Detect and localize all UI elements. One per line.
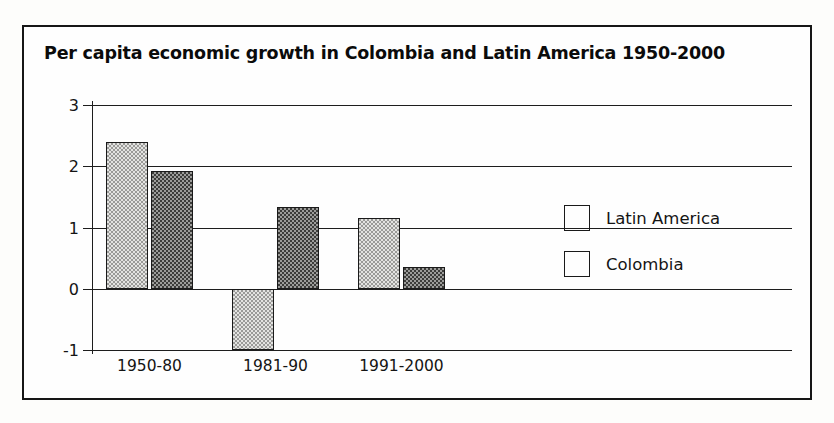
legend-swatch-icon <box>564 251 590 277</box>
bar-colombia-1991-2000 <box>403 267 445 288</box>
gridline-neg1 <box>92 350 792 351</box>
bar-latin-america-1991-2000 <box>358 218 400 288</box>
chart-title: Per capita economic growth in Colombia a… <box>44 43 725 63</box>
bar-latin-america-1950-80 <box>106 142 148 289</box>
bar-group-1950-80 <box>106 105 193 350</box>
y-axis-label: 3 <box>69 96 79 115</box>
y-tick-mark <box>83 166 93 167</box>
legend-item-colombia: Colombia <box>564 241 779 287</box>
bar-group-1981-90 <box>232 105 319 350</box>
chart-legend: Latin AmericaColombia <box>564 195 779 287</box>
y-axis-label: -1 <box>63 341 79 360</box>
y-tick-mark <box>83 228 93 229</box>
y-axis-label: 1 <box>69 218 79 237</box>
y-tick-mark <box>83 350 93 351</box>
y-axis-label: 0 <box>69 279 79 298</box>
legend-label: Latin America <box>606 209 720 228</box>
legend-label: Colombia <box>606 255 684 274</box>
legend-swatch-icon <box>564 205 590 231</box>
screenshot-page: Per capita economic growth in Colombia a… <box>0 0 834 423</box>
legend-item-latin-america: Latin America <box>564 195 779 241</box>
bar-colombia-1981-90 <box>277 207 319 288</box>
bar-colombia-1950-80 <box>151 171 193 289</box>
y-axis-label: 2 <box>69 157 79 176</box>
x-axis-label-1981-90: 1981-90 <box>243 357 308 375</box>
chart-figure-frame: Per capita economic growth in Colombia a… <box>22 25 812 400</box>
x-axis-label-1991-2000: 1991-2000 <box>359 357 444 375</box>
x-axis-labels: 1950-801981-901991-2000 <box>92 357 792 387</box>
bar-latin-america-1981-90 <box>232 289 274 350</box>
y-tick-mark <box>83 289 93 290</box>
y-tick-mark <box>83 105 93 106</box>
x-axis-label-1950-80: 1950-80 <box>117 357 182 375</box>
bar-group-1991-2000 <box>358 105 445 350</box>
